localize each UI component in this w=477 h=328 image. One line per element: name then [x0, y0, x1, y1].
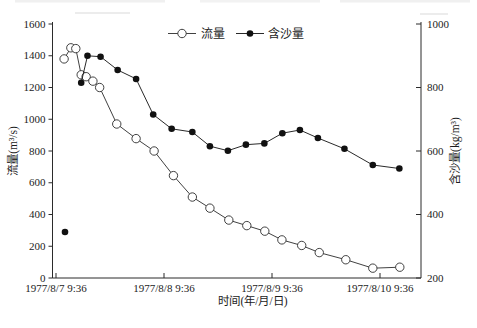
- x-tick-label: 1977/8/9 9:36: [241, 282, 303, 294]
- sediment-data-point: [97, 53, 104, 60]
- y-left-tick-label: 1600: [24, 18, 47, 30]
- y-left-tick-label: 600: [29, 176, 46, 188]
- y-left-tick-label: 800: [29, 145, 46, 157]
- sediment-data-point: [370, 162, 377, 169]
- flow-data-point: [95, 83, 103, 91]
- sediment-data-point: [84, 52, 91, 59]
- y-left-tick-label: 400: [29, 208, 46, 220]
- flow-data-point: [132, 134, 140, 142]
- x-tick-label: 1977/8/8 9:36: [133, 282, 195, 294]
- sediment-data-point: [133, 76, 140, 83]
- legend-label: 流量: [201, 27, 225, 41]
- hydrograph-figure: 0200400600800100012001400160020040060080…: [0, 0, 477, 328]
- y-right-tick-label: 200: [427, 272, 444, 284]
- scan-artifact: [75, 12, 130, 14]
- flow-data-point: [315, 248, 323, 256]
- sediment-data-point: [279, 130, 286, 137]
- scan-artifact: [420, 13, 448, 15]
- y-right-tick-label: 400: [427, 208, 444, 220]
- sediment-data-point: [207, 143, 214, 150]
- flow-data-point: [113, 120, 121, 128]
- flow-data-point: [225, 216, 233, 224]
- flow-data-point: [298, 241, 306, 249]
- x-tick-label: 1977/8/10 9:36: [347, 282, 414, 294]
- sediment-data-point: [189, 129, 196, 136]
- flow-data-point: [150, 147, 158, 155]
- x-tick-label: 1977/8/7 9:36: [25, 282, 87, 294]
- sediment-data-point: [225, 147, 232, 154]
- legend-label: 含沙量: [268, 26, 304, 41]
- flow-data-point: [261, 227, 269, 235]
- flow-data-point: [72, 44, 80, 52]
- flow-data-point: [89, 77, 97, 85]
- flow-data-point: [342, 256, 350, 264]
- y-left-tick-label: 1000: [24, 113, 47, 125]
- scan-artifact: [15, 0, 165, 3]
- y-left-tick-label: 1400: [24, 49, 47, 61]
- flow-data-point: [278, 236, 286, 244]
- scan-artifact: [200, 0, 320, 3]
- flow-sediment-chart: 0200400600800100012001400160020040060080…: [0, 0, 477, 328]
- flow-series-line: [64, 48, 400, 268]
- y-right-tick-label: 1000: [427, 18, 450, 30]
- legend-open-circle-icon: [178, 29, 186, 37]
- x-axis-title: 时间(年/月/日): [218, 294, 287, 308]
- sediment-data-point: [168, 125, 175, 132]
- sediment-data-point: [396, 165, 403, 172]
- sediment-data-point: [150, 111, 157, 118]
- sediment-data-point: [297, 127, 304, 134]
- y-right-tick-label: 600: [427, 145, 444, 157]
- sediment-data-point: [62, 229, 69, 236]
- flow-data-point: [396, 263, 404, 271]
- flow-data-point: [369, 264, 377, 272]
- flow-data-point: [169, 171, 177, 179]
- y-left-tick-label: 1200: [24, 81, 47, 93]
- sediment-series-line: [81, 56, 399, 169]
- flow-data-point: [188, 193, 196, 201]
- flow-data-point: [206, 204, 214, 212]
- sediment-data-point: [261, 140, 268, 147]
- legend-filled-circle-icon: [247, 30, 254, 37]
- sediment-data-point: [78, 79, 85, 86]
- y-right-tick-label: 800: [427, 81, 444, 93]
- y-left-tick-label: 200: [29, 240, 46, 252]
- flow-data-point: [243, 221, 251, 229]
- sediment-data-point: [341, 145, 348, 152]
- sediment-data-point: [243, 141, 250, 148]
- y-left-axis-title: 流量(m³/s): [6, 126, 20, 176]
- scan-artifact: [340, 0, 470, 3]
- sediment-data-point: [114, 67, 121, 74]
- axes-frame: [53, 22, 422, 278]
- y-right-axis-title: 含沙量(kg/m³): [448, 117, 462, 185]
- sediment-data-point: [315, 135, 322, 142]
- flow-data-point: [60, 55, 68, 63]
